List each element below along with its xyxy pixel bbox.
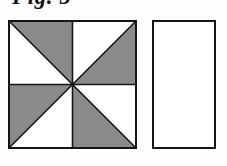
pinwheel-square [8,20,137,149]
empty-rectangle [152,20,216,149]
figure-caption-clip: Fig. 5 [0,0,227,14]
pinwheel-square-svg [8,20,137,149]
figure-caption: Fig. 5 [12,0,71,10]
figure-root: Fig. 5 [0,0,227,166]
empty-rectangle-border [153,21,215,148]
empty-rectangle-svg [152,20,216,149]
